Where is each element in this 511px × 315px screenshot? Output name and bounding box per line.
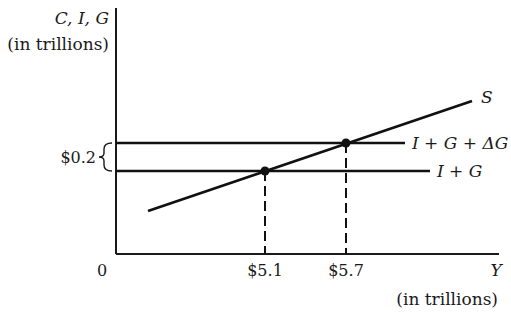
- origin-label: 0: [97, 261, 107, 280]
- lower-line-label: I + G: [436, 161, 482, 181]
- upper-line-label: I + G + ΔG: [411, 133, 508, 153]
- x-tick-5-1: $5.1: [247, 261, 283, 280]
- x-axis-label: Y: [490, 260, 503, 280]
- savings-label: S: [481, 87, 493, 107]
- equilibrium-point-2: [342, 139, 351, 148]
- brace-label: $0.2: [60, 148, 96, 167]
- diagram-canvas: C, I, G (in trillions) $0.2 S I + G + ΔG…: [0, 0, 511, 315]
- y-axis-units: (in trillions): [7, 34, 109, 54]
- x-axis-units: (in trillions): [396, 289, 498, 309]
- brace-icon: [99, 143, 112, 171]
- y-axis-label: C, I, G: [55, 8, 109, 28]
- equilibrium-point-1: [261, 167, 270, 176]
- x-tick-5-7: $5.7: [328, 261, 364, 280]
- savings-line: [148, 101, 472, 211]
